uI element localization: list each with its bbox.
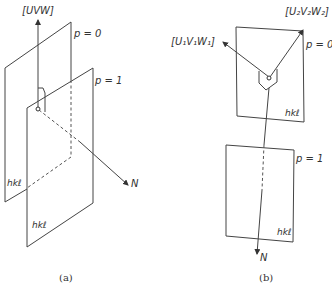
caption-b: (b)	[259, 272, 273, 283]
zone-axis-label: [UVW]	[22, 5, 54, 16]
origin-point	[267, 76, 271, 80]
plane-p0-label: p = 0	[305, 39, 332, 50]
plane-p1-label: p = 1	[295, 153, 323, 164]
normal-arrow	[80, 142, 128, 185]
zone-axis-2-label: [U₂V₂W₂]	[285, 6, 329, 17]
normal-label: N	[131, 178, 139, 189]
normal-arrow	[257, 190, 262, 254]
origin-point	[36, 107, 40, 111]
zone-axis-1-label: [U₁V₁W₁]	[171, 36, 215, 47]
plane-hkl-back-label: hkℓ	[7, 178, 22, 188]
zone-axis-2-arrow	[270, 30, 303, 77]
plane-hkl-front-label: hkℓ	[32, 220, 47, 230]
panel-b: [U₁V₁W₁] [U₂V₂W₂] p = 0 p = 1 hkℓ hkℓ N …	[171, 6, 332, 283]
plane-hkl-top-label: hkℓ	[285, 108, 300, 118]
plane-p0-label: p = 0	[73, 28, 101, 39]
plane-hkl-bottom-label: hkℓ	[277, 227, 292, 237]
caption-a: (a)	[59, 272, 73, 283]
panel-a: [UVW] p = 0 p = 1 N hkℓ hkℓ (a)	[5, 5, 139, 283]
zone-axis-1-arrow	[223, 42, 269, 77]
diagram-canvas: [UVW] p = 0 p = 1 N hkℓ hkℓ (a) [U₁V₁W₁]…	[0, 0, 332, 286]
plane-p1-label: p = 1	[94, 75, 122, 86]
normal-label: N	[260, 252, 268, 263]
